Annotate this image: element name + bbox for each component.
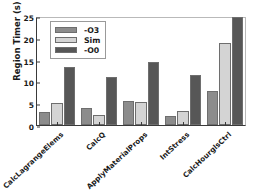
bar-group bbox=[123, 18, 159, 125]
x-axis-tick-mark bbox=[225, 122, 226, 125]
x-axis-tick-mark bbox=[99, 122, 100, 125]
x-axis-tick-label: ApplyMaterialProps bbox=[85, 130, 150, 191]
y-axis-tick-mark bbox=[37, 83, 40, 84]
x-axis-tick-label: CalcLagrangeElems bbox=[1, 130, 65, 190]
legend-label: -O3 bbox=[84, 26, 99, 35]
bar-O0-IntStress bbox=[190, 75, 202, 125]
bar-Sim-CalcHourglsCtrl bbox=[219, 43, 231, 125]
y-axis-tick-mark bbox=[37, 61, 40, 62]
x-axis-tick-label: IntStress bbox=[158, 130, 191, 162]
bar-O3-IntStress bbox=[165, 116, 177, 125]
y-axis-tick-mark bbox=[37, 18, 40, 19]
bar-O3-CalcLagrangeElems bbox=[39, 112, 51, 125]
x-axis-tick-mark bbox=[183, 122, 184, 125]
bar-O3-CalcHourglsCtrl bbox=[207, 91, 219, 125]
bar-group bbox=[207, 18, 243, 125]
x-axis-tick-mark bbox=[141, 122, 142, 125]
bar-O3-ApplyMaterialProps bbox=[123, 101, 135, 125]
legend-swatch-icon bbox=[55, 27, 77, 34]
bar-chart-figure: Region Timer (s) 0510152025 CalcLagrange… bbox=[0, 0, 264, 195]
chart-legend: -O3Sim-O0 bbox=[50, 21, 106, 59]
y-axis-tick-label: 10 bbox=[24, 79, 37, 88]
legend-label: Sim bbox=[84, 36, 100, 45]
bar-O0-CalcHourglsCtrl bbox=[232, 17, 244, 125]
bar-O0-CalcLagrangeElems bbox=[64, 67, 76, 125]
legend-swatch-icon bbox=[55, 37, 77, 44]
x-axis-tick-label: CalcQ bbox=[84, 130, 107, 152]
y-axis-label: Region Timer (s) bbox=[12, 0, 22, 96]
x-axis-tick-label: CalcHourglsCtrl bbox=[181, 130, 233, 180]
legend-item: -O3 bbox=[55, 25, 100, 35]
legend-item: Sim bbox=[55, 35, 100, 45]
bar-O3-CalcQ bbox=[81, 108, 93, 125]
y-axis-tick-mark bbox=[37, 105, 40, 106]
y-axis-tick-label: 0 bbox=[29, 123, 37, 132]
y-axis-tick-label: 25 bbox=[24, 14, 37, 23]
y-axis-tick-mark bbox=[37, 39, 40, 40]
bar-group bbox=[165, 18, 201, 125]
y-axis-tick-mark bbox=[37, 127, 40, 128]
y-axis-tick-label: 5 bbox=[29, 101, 37, 110]
y-axis-tick-label: 15 bbox=[24, 57, 37, 66]
legend-item: -O0 bbox=[55, 45, 100, 55]
y-axis-tick-label: 20 bbox=[24, 35, 37, 44]
bar-O0-CalcQ bbox=[106, 77, 118, 125]
legend-label: -O0 bbox=[84, 46, 99, 55]
x-axis-tick-mark bbox=[57, 122, 58, 125]
legend-swatch-icon bbox=[55, 47, 77, 54]
bar-O0-ApplyMaterialProps bbox=[148, 62, 160, 125]
